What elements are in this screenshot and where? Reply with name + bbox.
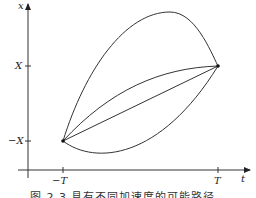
x-axis-label: t <box>241 174 245 184</box>
x-tick-label-T: T <box>214 176 221 186</box>
path-straight-line <box>63 66 218 141</box>
path-upper-arc <box>63 12 218 141</box>
y-axis-label: x <box>18 1 24 11</box>
diagram-canvas <box>0 0 256 198</box>
figure-caption: 图 2.3 具有不同加速度的可能路径 <box>30 188 216 198</box>
y-tick-label-neg-X: −X <box>8 136 24 146</box>
end-point <box>216 64 220 68</box>
y-tick-label-X: X <box>15 61 22 71</box>
path-lower-arc <box>63 66 218 153</box>
x-tick-label-neg-T: −T <box>52 176 67 186</box>
start-point <box>61 139 65 143</box>
